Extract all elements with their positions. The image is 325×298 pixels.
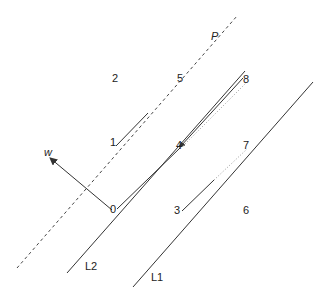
label-w: w	[44, 146, 53, 158]
segment-1	[116, 113, 148, 146]
label-point-2: 2	[112, 72, 118, 84]
segment-0-to-4	[117, 148, 180, 209]
label-l1: L1	[151, 271, 163, 283]
label-point-5: 5	[177, 72, 183, 84]
label-point-3: 3	[174, 204, 180, 216]
vector-w-arrow	[50, 158, 112, 210]
label-point-8: 8	[243, 73, 249, 85]
line-p-dashed	[17, 16, 237, 268]
label-point-1: 1	[110, 136, 116, 148]
label-p: P	[211, 30, 219, 42]
label-point-4: 4	[176, 139, 182, 151]
label-l2: L2	[85, 260, 97, 272]
segment-8-to-4-arrow	[180, 78, 243, 147]
segment-4-to-8-dotted	[183, 82, 247, 146]
label-point-7: 7	[243, 139, 249, 151]
label-point-6: 6	[243, 204, 249, 216]
line-l2	[67, 71, 245, 273]
line-l1	[133, 82, 313, 287]
label-point-0: 0	[110, 203, 116, 215]
diagram-canvas: P w L2 L1 0 1 2 3 4 5 6 7 8	[0, 0, 325, 298]
segment-3-solid	[182, 180, 214, 211]
